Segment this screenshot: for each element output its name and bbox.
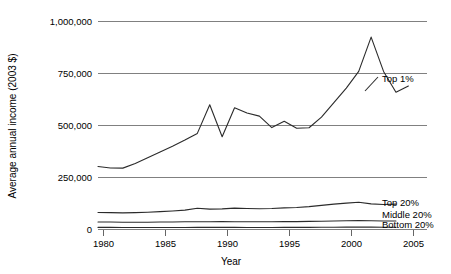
series-label-bottom-20-percent: Bottom 20% xyxy=(382,219,434,230)
y-tick-label-750000: 750,000 xyxy=(58,68,92,79)
series-line-middle-20-percent xyxy=(98,221,396,223)
top-1-percent-leader-line xyxy=(365,77,378,91)
series-line-top-20-percent xyxy=(98,202,396,213)
series-paths xyxy=(98,37,408,227)
y-axis-title: Average annual income (2003 $) xyxy=(7,54,18,199)
y-tick-label-500000: 500,000 xyxy=(58,120,92,131)
x-tickmarks xyxy=(104,230,414,236)
series-label-top-1-percent: Top 1% xyxy=(382,73,414,84)
x-tick-label-1995: 1995 xyxy=(279,238,300,249)
y-tick-labels: 1,000,000 750,000 500,000 250,000 0 xyxy=(50,16,92,235)
x-tick-label-1985: 1985 xyxy=(155,238,176,249)
chart-page: 1,000,000 750,000 500,000 250,000 0 1980… xyxy=(0,0,451,274)
series-label-top-20-percent: Top 20% xyxy=(382,197,420,208)
y-tick-label-1000000: 1,000,000 xyxy=(50,16,92,27)
y-tick-label-0: 0 xyxy=(87,224,92,235)
x-tick-label-1980: 1980 xyxy=(93,238,114,249)
series-line-top-1-percent xyxy=(98,37,408,168)
series-labels: Top 1% Top 20% Middle 20% Bottom 20% xyxy=(382,73,434,230)
x-axis-title: Year xyxy=(221,256,242,267)
x-tick-labels: 1980 1985 1990 1995 2000 2005 xyxy=(93,238,424,249)
x-tick-label-2005: 2005 xyxy=(403,238,424,249)
income-line-chart: 1,000,000 750,000 500,000 250,000 0 1980… xyxy=(0,0,451,274)
x-tick-label-2000: 2000 xyxy=(341,238,362,249)
gridlines xyxy=(98,22,427,230)
x-tick-label-1990: 1990 xyxy=(217,238,238,249)
y-tick-label-250000: 250,000 xyxy=(58,172,92,183)
